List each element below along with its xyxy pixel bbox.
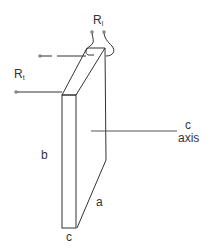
rl-label: Rl	[93, 14, 103, 27]
rt-terminal-upper	[39, 55, 41, 57]
rt-label-main: R	[14, 67, 23, 81]
rl-label-main: R	[93, 13, 102, 27]
axis-word-label: axis	[178, 132, 199, 144]
rt-label: Rt	[14, 68, 25, 81]
sample-diagram	[0, 0, 210, 250]
slab-front-face	[62, 95, 76, 228]
dimension-b-label: b	[41, 149, 48, 161]
dimension-a-label: a	[96, 196, 103, 208]
rt-label-sub: t	[23, 74, 25, 81]
rl-label-sub: l	[102, 20, 104, 27]
dimension-c-label: c	[66, 231, 72, 243]
rt-terminal-lower	[15, 91, 17, 93]
rl-terminal-left	[91, 31, 93, 33]
rl-wire-left	[86, 32, 94, 55]
c-axis-label: c	[185, 119, 191, 131]
rl-terminal-right	[103, 31, 105, 33]
slab-top-face	[62, 48, 105, 95]
